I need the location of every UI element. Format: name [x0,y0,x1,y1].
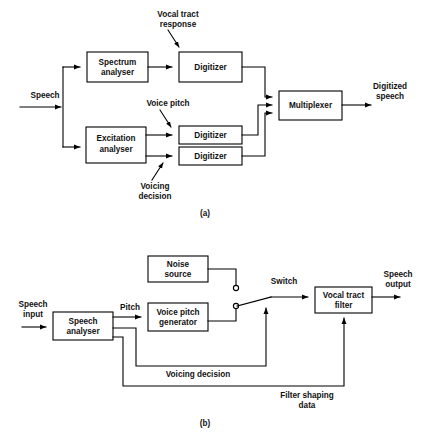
label-speech-input-a: Speech [30,91,59,100]
block-digitizer-mid-label: Digitizer [194,131,227,140]
label-speech-input-b-line2: input [23,310,43,319]
wire-digitizer-top-to-multiplexer [242,67,272,97]
label-speech-input-b-line1: Speech [18,300,47,309]
label-switch: Switch [271,277,297,286]
wire-digitizer-mid-to-multiplexer [242,105,272,135]
block-noise-source-line2: source [165,270,192,279]
switch-contact-upper[interactable] [233,285,238,290]
label-voice-pitch: Voice pitch [146,99,189,108]
label-vocal-tract-response-line1: Vocal tract [157,10,199,19]
arrow-vocal-tract-response [168,30,179,47]
label-digitized-speech-line1: Digitized [373,82,407,91]
block-noise-source-line1: Noise [167,260,190,269]
label-vocal-tract-response-line2: response [160,20,197,29]
label-voicing-decision-line1: Voicing [141,182,170,191]
block-digitizer-low-label: Digitizer [194,152,227,161]
block-spectrum-analyser-line1: Spectrum [99,58,137,67]
wire-noise-to-switch-contact [208,269,236,286]
arrow-voice-pitch [160,110,171,127]
label-digitized-speech-line2: speech [376,92,404,101]
caption-a: (a) [200,209,210,218]
block-vocal-tract-filter-line2: filter [335,301,354,310]
block-digitizer-top-label: Digitizer [194,63,227,72]
wire-generator-to-switch-contact [208,308,236,321]
caption-b: (b) [200,419,211,428]
block-voice-pitch-generator-line1: Voice pitch [156,308,199,317]
block-excitation-analyser-line1: Excitation [96,134,135,143]
label-filter-shaping-line2: data [299,401,316,410]
label-filter-shaping-line1: Filter shaping [280,391,334,400]
label-speech-output-line1: Speech [383,270,412,279]
block-diagram-svg: Spectrum analyser Digitizer Excitation a… [0,0,424,441]
block-excitation-analyser-line2: analyser [99,145,133,154]
label-speech-output-line2: output [385,280,411,289]
block-speech-analyser-line1: Speech [68,317,97,326]
block-speech-analyser-line2: analyser [66,327,100,336]
arrow-voicing-decision [152,163,163,180]
switch-blade[interactable] [237,297,271,306]
label-pitch: Pitch [120,303,140,312]
block-multiplexer-label: Multiplexer [289,101,333,110]
label-voicing-decision-b: Voicing decision [166,370,230,379]
figure-root: Spectrum analyser Digitizer Excitation a… [0,0,424,441]
block-vocal-tract-filter-line1: Vocal tract [323,291,365,300]
block-spectrum-analyser-line2: analyser [101,68,135,77]
block-voice-pitch-generator-line2: generator [159,318,198,327]
label-voicing-decision-line2: decision [138,192,171,201]
